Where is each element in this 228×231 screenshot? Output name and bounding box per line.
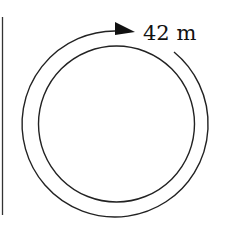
distance-label: 42 m xyxy=(143,21,196,45)
direction-arrow-icon xyxy=(115,22,135,35)
inner-track-circle xyxy=(39,46,195,202)
outer-track-arc xyxy=(22,31,208,217)
circular-track-diagram: 42 m xyxy=(0,0,228,231)
